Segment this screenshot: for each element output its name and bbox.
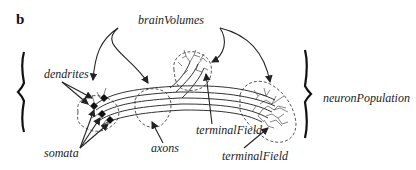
neuron-population-label: neuronPopulation [323, 91, 410, 105]
brain-volumes-label: brainVolumes [138, 13, 204, 27]
panel-label: b [16, 11, 24, 27]
arrow-to-somata-region [93, 28, 118, 80]
right-brace [305, 50, 311, 138]
arrow-to-terminal-field-2 [220, 28, 270, 82]
terminal-field-1-label: terminalField [196, 123, 263, 137]
somata-label: somata [44, 146, 79, 160]
axon-bundle [95, 62, 275, 125]
terminal-field-2-label: terminalField [222, 149, 289, 163]
axons-label: axons [151, 141, 179, 155]
neuron-population-diagram: b brainVolumes [0, 0, 416, 170]
left-brace [18, 52, 24, 132]
dendrites-arrows [62, 82, 92, 104]
arrow-to-terminal-field-1 [212, 28, 224, 62]
brain-volumes-arrows [93, 28, 270, 83]
figure-panel-b: b brainVolumes [0, 0, 416, 170]
arrow-to-axons-region [112, 28, 148, 83]
dendrites-label: dendrites [44, 67, 89, 81]
